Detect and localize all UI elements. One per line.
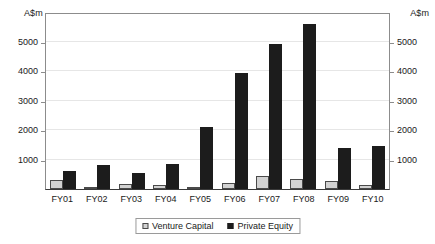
- legend-item-private-equity[interactable]: Private Equity: [228, 221, 294, 231]
- y-axis-tick-right: [390, 43, 394, 44]
- right-axis-unit-label: A$m: [410, 8, 429, 18]
- x-axis-label-fy01: FY01: [45, 194, 79, 204]
- y-axis-tick-left: [41, 161, 45, 162]
- x-axis-label-fy09: FY09: [321, 194, 355, 204]
- bar-venture-capital-fy07[interactable]: [256, 176, 269, 189]
- bar-private-equity-fy01[interactable]: [63, 171, 76, 189]
- x-axis-label-fy07: FY07: [252, 194, 286, 204]
- y-axis-tick-label-right: 2000: [397, 125, 427, 135]
- bar-private-equity-fy06[interactable]: [235, 73, 248, 189]
- y-axis-tick-label-left: 3000: [8, 96, 38, 106]
- legend-swatch-private-equity-icon: [228, 223, 234, 229]
- bar-group: [359, 14, 385, 189]
- y-axis-tick-right: [390, 161, 394, 162]
- y-axis-tick-right: [390, 102, 394, 103]
- x-axis-category-labels: FY01FY02FY03FY04FY05FY06FY07FY08FY09FY10: [45, 194, 390, 208]
- bar-venture-capital-fy03[interactable]: [119, 184, 132, 189]
- chart-legend: Venture CapitalPrivate Equity: [135, 218, 300, 234]
- bar-group: [325, 14, 351, 189]
- bar-venture-capital-fy06[interactable]: [222, 183, 235, 189]
- y-axis-tick-label-right: 5000: [397, 37, 427, 47]
- plot-area: [45, 13, 390, 190]
- left-axis-unit-label: A$m: [24, 8, 43, 18]
- bar-group: [84, 14, 110, 189]
- x-axis-label-fy02: FY02: [80, 194, 114, 204]
- bar-chart: A$m A$m FY01FY02FY03FY04FY05FY06FY07FY08…: [0, 0, 435, 244]
- bar-group: [222, 14, 248, 189]
- y-axis-tick-right: [390, 72, 394, 73]
- y-axis-tick-left: [41, 43, 45, 44]
- y-axis-tick-label-right: 1000: [397, 155, 427, 165]
- y-axis-tick-label-left: 4000: [8, 66, 38, 76]
- bar-private-equity-fy07[interactable]: [269, 44, 282, 189]
- bar-private-equity-fy05[interactable]: [200, 127, 213, 189]
- bar-venture-capital-fy04[interactable]: [153, 185, 166, 189]
- bar-group: [187, 14, 213, 189]
- bar-venture-capital-fy10[interactable]: [359, 185, 372, 189]
- y-axis-tick-label-left: 1000: [8, 155, 38, 165]
- bar-private-equity-fy02[interactable]: [97, 165, 110, 189]
- y-axis-tick-left: [41, 131, 45, 132]
- y-axis-tick-left: [41, 72, 45, 73]
- legend-label: Venture Capital: [152, 221, 214, 231]
- x-axis-label-fy04: FY04: [149, 194, 183, 204]
- bar-group: [153, 14, 179, 189]
- bar-group: [290, 14, 316, 189]
- y-axis-tick-right: [390, 131, 394, 132]
- bar-private-equity-fy04[interactable]: [166, 164, 179, 189]
- y-axis-tick-label-right: 4000: [397, 66, 427, 76]
- x-axis-label-fy03: FY03: [114, 194, 148, 204]
- y-axis-tick-label-right: 3000: [397, 96, 427, 106]
- bar-venture-capital-fy01[interactable]: [50, 180, 63, 189]
- bar-groups: [46, 14, 389, 189]
- bar-group: [119, 14, 145, 189]
- bar-venture-capital-fy09[interactable]: [325, 181, 338, 189]
- legend-swatch-venture-capital-icon: [142, 223, 148, 229]
- bar-private-equity-fy10[interactable]: [372, 146, 385, 189]
- bar-group: [50, 14, 76, 189]
- x-axis-label-fy08: FY08: [287, 194, 321, 204]
- legend-label: Private Equity: [238, 221, 294, 231]
- x-axis-label-fy10: FY10: [356, 194, 390, 204]
- bar-venture-capital-fy08[interactable]: [290, 179, 303, 189]
- bar-private-equity-fy08[interactable]: [303, 24, 316, 189]
- x-axis-label-fy05: FY05: [183, 194, 217, 204]
- bar-venture-capital-fy05[interactable]: [187, 187, 200, 189]
- y-axis-tick-label-left: 5000: [8, 37, 38, 47]
- y-axis-tick-left: [41, 102, 45, 103]
- bar-private-equity-fy03[interactable]: [132, 173, 145, 189]
- bar-private-equity-fy09[interactable]: [338, 148, 351, 189]
- bar-group: [256, 14, 282, 189]
- bar-venture-capital-fy02[interactable]: [84, 187, 97, 189]
- y-axis-tick-label-left: 2000: [8, 125, 38, 135]
- legend-item-venture-capital[interactable]: Venture Capital: [142, 221, 214, 231]
- x-axis-label-fy06: FY06: [218, 194, 252, 204]
